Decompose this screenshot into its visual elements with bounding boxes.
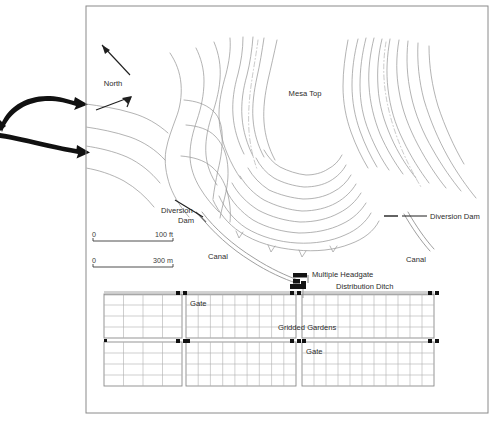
label-gate-lower: Gate xyxy=(306,347,322,356)
label-mesa-top: Mesa Top xyxy=(289,89,322,98)
scale-meters-value: 300 m xyxy=(153,256,173,265)
label-north: North xyxy=(104,79,123,88)
scale-feet-value: 100 ft xyxy=(155,230,173,239)
label-diversion-dam-west-line2: Dam xyxy=(178,216,194,225)
label-diversion-dam-west-line1: Diversion xyxy=(161,206,193,215)
label-diversion-dam-east: Diversion Dam xyxy=(430,212,480,221)
figure-background xyxy=(0,0,500,429)
label-gridded-gardens: Gridded Gardens xyxy=(278,323,336,332)
label-distribution-ditch: Distribution Ditch xyxy=(336,282,393,291)
scale-feet-zero: 0 xyxy=(92,230,96,239)
label-canal-west: Canal xyxy=(208,252,228,261)
label-canal-east: Canal xyxy=(406,255,426,264)
label-multiple-headgate: Multiple Headgate xyxy=(312,270,373,279)
site-map-figure: North Mesa Top Diversion Dam Diversion D… xyxy=(0,0,500,429)
scale-meters-zero: 0 xyxy=(92,256,96,265)
label-gate-upper: Gate xyxy=(190,299,206,308)
